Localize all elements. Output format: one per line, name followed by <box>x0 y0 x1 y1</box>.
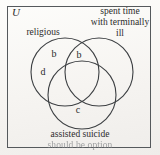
set-label-assisted-suicide-line1: assisted suicide <box>51 129 110 139</box>
set-label-terminally-ill-line2: with terminally <box>91 17 149 27</box>
set-label-assisted-suicide: assisted suicide should be option <box>28 129 132 151</box>
region-label-religious-and-terminally-ill: b <box>72 50 86 60</box>
circle-assisted-suicide <box>48 61 116 129</box>
region-label-religious-left: d <box>36 67 50 77</box>
set-label-terminally-ill-line1: spent time <box>100 6 139 16</box>
set-label-religious: religious <box>12 27 74 38</box>
set-label-terminally-ill: spent time with terminally ill <box>84 6 156 39</box>
set-label-assisted-suicide-line2: should be option <box>28 140 132 151</box>
region-label-assisted-suicide-only: c <box>71 105 85 115</box>
region-label-religious-only: b <box>47 49 61 59</box>
venn-diagram-figure: U religious spent time with terminally i… <box>0 0 160 155</box>
set-label-terminally-ill-line3: ill <box>116 28 124 38</box>
